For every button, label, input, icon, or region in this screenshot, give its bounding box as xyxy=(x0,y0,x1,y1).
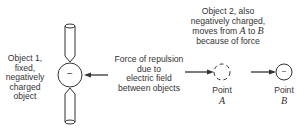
upper-support-rod xyxy=(65,24,75,62)
object1-charge-sign: − xyxy=(64,69,76,79)
point-a-label: Point A xyxy=(207,86,237,105)
point-a-dashed-circle xyxy=(214,64,230,80)
arrowhead-b xyxy=(269,70,276,75)
point-b-label: Point B xyxy=(269,86,299,105)
force-arrowhead xyxy=(84,73,91,78)
force-label: Force of repulsion due to electric field… xyxy=(106,55,192,93)
point-b-charge-sign: − xyxy=(280,67,288,77)
object1-label: Object 1, fixed, negatively charged obje… xyxy=(0,54,50,102)
arrowhead-a xyxy=(207,70,214,75)
object2-label: Object 2, also negatively charged, moves… xyxy=(178,7,278,46)
lower-support-rod xyxy=(65,88,75,124)
